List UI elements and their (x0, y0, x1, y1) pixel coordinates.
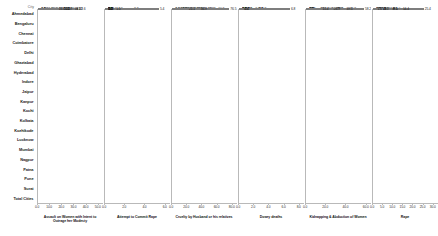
panel-title: Rape (401, 215, 409, 219)
city-label: Total Cities (0, 193, 36, 203)
panel-x-axis: 0.010.020.030.040.050.0 (37, 203, 103, 214)
bar-value-label: 25.4 (425, 7, 431, 11)
axis-tick-label: 5.0 (380, 205, 384, 209)
panel-title-band: Assault on Women with Intent to Outrage … (37, 214, 103, 236)
panel-x-axis: 0.05.010.015.020.025.030.0 (372, 203, 438, 214)
axis-tick-label: 8.0 (297, 205, 301, 209)
city-label: Jaipur (0, 87, 36, 97)
panel-plot-area: 3.913.60.40.242.829.13.00.030.524.058.20… (305, 9, 371, 203)
bar (239, 8, 243, 10)
axis-tick-label: 2.0 (122, 205, 126, 209)
axis-tick-label: 0.0 (35, 205, 39, 209)
panel-title: Dowry deaths (260, 215, 282, 219)
bar-value-label: 31.2 (77, 7, 83, 11)
panel-title-band: Kidnapping & Abduction of Women (305, 214, 371, 236)
panel-x-axis: 0.02.04.06.0 (104, 203, 170, 214)
axis-tick-label: 6.0 (163, 205, 167, 209)
axis-tick-label: 80.0 (229, 205, 235, 209)
axis-tick-label: 50.0 (95, 205, 101, 209)
bar (172, 8, 188, 10)
axis-tick-label: 30.0 (430, 205, 436, 209)
axis-tick-label: 40.0 (198, 205, 204, 209)
axis-tick-label: 0.0 (303, 205, 307, 209)
bar-value-label: 0.2 (108, 7, 112, 11)
panel-plot-area: 0.10.00.00.00.11.20.10.00.60.20.00.22.85… (104, 9, 170, 203)
panel-x-axis: 0.020.040.060.0 (305, 203, 371, 214)
bar-value-label: 14.4 (403, 7, 409, 11)
label-column-axis-spacer (0, 203, 36, 214)
chart-panel: 22.213.12.92.930.546.726.031.460.240.248… (170, 0, 237, 236)
bar-value-label: 6.8 (291, 7, 295, 11)
chart-panel: 7.624.11.60.133.617.010.929.416.420.322.… (36, 0, 103, 236)
axis-tick-label: 15.0 (399, 205, 405, 209)
bar-value-label: 76.5 (230, 7, 236, 11)
city-label: Patna (0, 164, 36, 174)
city-label: Nagpur (0, 155, 36, 165)
bar-value-label: 36.9 (201, 7, 207, 11)
axis-tick-label: 10.0 (46, 205, 52, 209)
bar-value-label: 1.0 (116, 7, 120, 11)
axis-line (171, 203, 237, 204)
label-column-title-spacer (0, 214, 36, 236)
bar-value-label: 1.6 (377, 7, 381, 11)
city-label: Chennai (0, 28, 36, 38)
axis-tick-label: 4.0 (266, 205, 270, 209)
panel-title: Kidnapping & Abduction of Women (309, 215, 366, 219)
axis-tick-label: 60.0 (363, 205, 369, 209)
bar-value-label: 26.9 (334, 7, 340, 11)
axis-tick-label: 4.0 (142, 205, 146, 209)
axis-tick-label: 20.0 (58, 205, 64, 209)
panel-title-band: Dowry deaths (238, 214, 304, 236)
bar-value-label: 16.4 (59, 7, 65, 11)
axis-tick-label: 10.0 (389, 205, 395, 209)
axis-tick-label: 0.0 (169, 205, 173, 209)
axis-tick-label: 40.0 (343, 205, 349, 209)
panel-plot-area: 7.624.11.60.133.617.010.929.416.420.322.… (37, 9, 103, 203)
axis-header: City (0, 0, 36, 9)
panel-title: Cruelty by Husband or his relatives (176, 215, 233, 219)
bar (373, 8, 376, 10)
axis-tick-label: 20.0 (322, 205, 328, 209)
city-label-column: CityAhmedabadBengaluruChennaiCoimbatoreD… (0, 0, 36, 236)
bar-value-label: 15.4 (323, 7, 329, 11)
city-label: Hyderabad (0, 67, 36, 77)
city-label: Bengaluru (0, 19, 36, 29)
bar-value-label: 21.0 (64, 7, 70, 11)
axis-line (305, 203, 371, 204)
axis-line (238, 203, 304, 204)
city-label: Kanpur (0, 96, 36, 106)
axis-tick-label: 6.0 (281, 205, 285, 209)
axis-tick-label: 30.0 (71, 205, 77, 209)
panel-plot-area: 22.213.12.92.930.546.726.031.460.240.248… (171, 9, 237, 203)
panel-title: Attempt to Commit Rape (117, 215, 157, 219)
axis-tick-label: 0.0 (102, 205, 106, 209)
axis-tick-label: 0.0 (370, 205, 374, 209)
panel-x-axis: 0.02.04.06.08.0 (238, 203, 304, 214)
city-label: Mumbai (0, 145, 36, 155)
panel-x-axis: 0.020.040.060.080.0 (171, 203, 237, 214)
city-label: Lucknow (0, 135, 36, 145)
panel-title: Assault on Women with Intent to Outrage … (38, 215, 102, 224)
axis-line (37, 203, 103, 204)
chart-panel: 3.913.60.40.242.829.13.00.030.524.058.20… (304, 0, 371, 236)
chart-root: CityAhmedabadBengaluruChennaiCoimbatoreD… (0, 0, 438, 236)
bar-value-label: 5.4 (160, 7, 164, 11)
city-label: Pune (0, 174, 36, 184)
bar (105, 8, 107, 10)
city-label: Delhi (0, 48, 36, 58)
city-label: Kolkata (0, 116, 36, 126)
bar-value-label: 39.5 (347, 7, 353, 11)
axis-tick-label: 40.0 (83, 205, 89, 209)
axis-tick-label: 20.0 (410, 205, 416, 209)
axis-tick-label: 25.0 (420, 205, 426, 209)
panel-title-band: Attempt to Commit Rape (104, 214, 170, 236)
bar-value-label: 0.6 (245, 7, 249, 11)
bar (38, 8, 58, 10)
city-label: Kochi (0, 106, 36, 116)
chart-panel: 0.10.00.00.00.11.20.10.00.60.20.00.22.85… (103, 0, 170, 236)
city-label: Ahmedabad (0, 9, 36, 19)
axis-tick-label: 2.0 (251, 205, 255, 209)
panel-title-band: Rape (372, 214, 438, 236)
panel-plot-area: 0.11.00.10.01.02.00.71.02.42.52.90.00.20… (238, 9, 304, 203)
axis-tick-label: 60.0 (214, 205, 220, 209)
